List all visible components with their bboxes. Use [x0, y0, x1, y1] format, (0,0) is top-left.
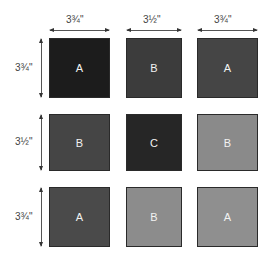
block-r3-c3: A	[197, 187, 258, 247]
row-2-height-label: 3½"	[15, 136, 32, 147]
block-letter: A	[76, 211, 83, 223]
block-letter: A	[224, 62, 231, 74]
block-r3-c2: B	[126, 187, 182, 247]
block-letter: A	[76, 62, 83, 74]
col-3-width-label: 3¾"	[214, 14, 231, 25]
row-1-height-label: 3¾"	[15, 62, 32, 73]
block-letter: C	[150, 137, 158, 149]
block-r1-c1: A	[49, 38, 110, 98]
col-1-width-label: 3¾"	[66, 14, 83, 25]
block-letter: B	[76, 137, 83, 149]
block-r2-c1: B	[49, 114, 110, 171]
block-letter: B	[150, 62, 157, 74]
block-letter: B	[150, 211, 157, 223]
block-r1-c2: B	[126, 38, 182, 98]
block-letter: A	[224, 211, 231, 223]
block-r2-c3: B	[197, 114, 258, 171]
block-r3-c1: A	[49, 187, 110, 247]
block-r1-c3: A	[197, 38, 258, 98]
row-3-height-label: 3¾"	[15, 211, 32, 222]
col-2-width-label: 3½"	[143, 14, 160, 25]
block-letter: B	[224, 137, 231, 149]
block-r2-c2: C	[126, 114, 182, 171]
